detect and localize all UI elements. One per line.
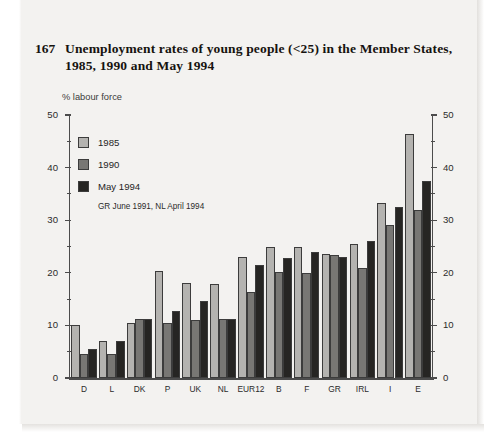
chart-legend: 19851990May 1994 xyxy=(78,131,298,197)
y-axis-label-right: 40 xyxy=(443,162,467,173)
legend-note: GR June 1991, NL April 1994 xyxy=(98,202,204,211)
y-axis-label-left: 10 xyxy=(34,319,58,330)
bar-f-1990 xyxy=(302,273,311,378)
y-axis-unit-label: % labour force xyxy=(62,92,122,102)
bar-i-1985 xyxy=(377,203,386,378)
bar-l-may-1994 xyxy=(116,341,125,378)
bar-irl-1985 xyxy=(350,244,359,378)
bar-l-1990 xyxy=(107,354,116,378)
y-axis-label-right: 30 xyxy=(443,214,467,225)
bar-gr-1990 xyxy=(330,255,339,378)
bar-i-may-1994 xyxy=(395,207,404,378)
legend-item-may-1994: May 1994 xyxy=(78,175,298,197)
x-axis-label-e: E xyxy=(404,384,432,394)
x-axis-label-l: L xyxy=(98,384,126,394)
bar-gr-may-1994 xyxy=(339,257,348,378)
bar-e-1990 xyxy=(414,210,423,378)
bar-b-may-1994 xyxy=(283,258,292,378)
x-axis-label-dk: DK xyxy=(126,384,154,394)
x-axis-label-d: D xyxy=(70,384,98,394)
bar-d-1985 xyxy=(71,325,80,378)
x-axis-label-gr: GR xyxy=(321,384,349,394)
bar-dk-1985 xyxy=(127,323,136,378)
x-axis-label-b: B xyxy=(265,384,293,394)
y-axis-label-right: 20 xyxy=(443,267,467,278)
x-axis-label-i: I xyxy=(376,384,404,394)
legend-item-1985: 1985 xyxy=(78,131,298,153)
y-axis-label-left: 30 xyxy=(34,214,58,225)
bar-eur12-may-1994 xyxy=(255,265,264,378)
y-axis-label-right: 10 xyxy=(443,319,467,330)
y-axis-label-left: 40 xyxy=(34,162,58,173)
bar-chart: % labour force 0010102020303040405050 DL… xyxy=(0,0,498,443)
y-axis-label-left: 20 xyxy=(34,267,58,278)
bar-dk-may-1994 xyxy=(144,319,153,378)
y-axis-label-left: 0 xyxy=(34,372,58,383)
legend-swatch-icon xyxy=(78,137,89,148)
x-axis-label-uk: UK xyxy=(181,384,209,394)
legend-label: 1985 xyxy=(98,137,119,148)
bar-b-1985 xyxy=(266,247,275,379)
bar-p-may-1994 xyxy=(172,311,181,378)
bar-gr-1985 xyxy=(322,254,331,378)
legend-swatch-icon xyxy=(78,181,89,192)
bar-eur12-1990 xyxy=(247,292,256,378)
y-axis-label-right: 0 xyxy=(443,372,467,383)
bar-dk-1990 xyxy=(135,319,144,378)
x-axis-label-p: P xyxy=(154,384,182,394)
bar-irl-may-1994 xyxy=(367,241,376,378)
bar-nl-may-1994 xyxy=(227,319,236,378)
x-axis-label-irl: IRL xyxy=(348,384,376,394)
bar-uk-1990 xyxy=(191,320,200,378)
bar-b-1990 xyxy=(275,272,284,378)
x-axis-label-eur12: EUR12 xyxy=(237,384,265,394)
bar-uk-may-1994 xyxy=(200,301,209,378)
y-axis-label-left: 50 xyxy=(34,109,58,120)
bar-p-1985 xyxy=(155,271,164,378)
page-root: 167 Unemployment rates of young people (… xyxy=(0,0,498,443)
legend-item-1990: 1990 xyxy=(78,153,298,175)
x-axis-label-nl: NL xyxy=(209,384,237,394)
bar-e-1985 xyxy=(405,134,414,378)
x-axis-line xyxy=(69,378,434,380)
bar-p-1990 xyxy=(163,323,172,378)
y-axis-label-right: 50 xyxy=(443,109,467,120)
bar-d-1990 xyxy=(80,354,89,378)
bar-d-may-1994 xyxy=(88,349,97,378)
bar-f-1985 xyxy=(294,247,303,379)
legend-swatch-icon xyxy=(78,159,89,170)
bar-uk-1985 xyxy=(182,283,191,378)
bar-irl-1990 xyxy=(358,268,367,378)
legend-label: 1990 xyxy=(98,159,119,170)
x-axis-label-f: F xyxy=(293,384,321,394)
bar-e-may-1994 xyxy=(422,181,431,378)
bar-eur12-1985 xyxy=(238,257,247,378)
bar-i-1990 xyxy=(386,225,395,378)
legend-label: May 1994 xyxy=(98,181,140,192)
bar-nl-1985 xyxy=(210,284,219,378)
bar-nl-1990 xyxy=(219,319,228,378)
bar-f-may-1994 xyxy=(311,252,320,378)
bar-l-1985 xyxy=(99,341,108,378)
